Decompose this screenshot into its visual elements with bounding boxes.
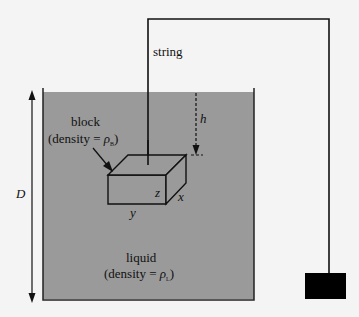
depth-D-arrow [29,90,36,303]
diagram-canvas: D string z x y h block (density = ρB) li… [0,0,359,317]
hanging-weight [305,273,346,299]
label-x: x [177,189,184,204]
label-liquid-density: (density = ρL) [104,266,174,282]
label-string: string [153,44,183,59]
label-h: h [200,111,207,126]
label-liquid: liquid [126,250,157,265]
label-block-density: (density = ρB) [48,131,118,147]
label-D: D [15,186,26,201]
label-y: y [128,205,136,220]
label-z: z [154,185,160,200]
label-block: block [71,114,100,129]
